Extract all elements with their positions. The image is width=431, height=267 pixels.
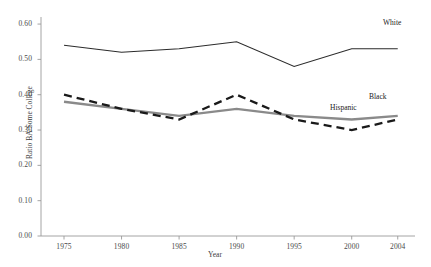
chart-axes: [38, 17, 416, 240]
chart-container: 0.000.100.200.300.400.500.60 19751980198…: [0, 0, 431, 267]
x-axis-ticks: [64, 236, 398, 240]
y-axis-ticks: [38, 24, 42, 236]
chart-plot-area: [0, 0, 431, 267]
series-line-white: [64, 42, 398, 67]
x-axis-title: Year: [185, 250, 245, 259]
series-label-white: White: [383, 18, 401, 27]
x-axis-tick-label: 1975: [44, 242, 84, 251]
y-axis-tick-label: 0.00: [6, 231, 32, 240]
series-label-hispanic: Hispanic: [330, 103, 357, 112]
x-axis-tick-label: 1980: [102, 242, 142, 251]
x-axis-tick-label: 2000: [332, 242, 372, 251]
chart-series-group: [64, 42, 398, 130]
series-line-hispanic: [64, 95, 398, 130]
y-axis-title: Ratio BA/Some College: [25, 48, 34, 198]
y-axis-tick-label: 0.60: [6, 19, 32, 28]
x-axis-tick-label: 2004: [378, 242, 418, 251]
x-axis-tick-label: 1995: [274, 242, 314, 251]
series-label-black: Black: [369, 92, 387, 101]
